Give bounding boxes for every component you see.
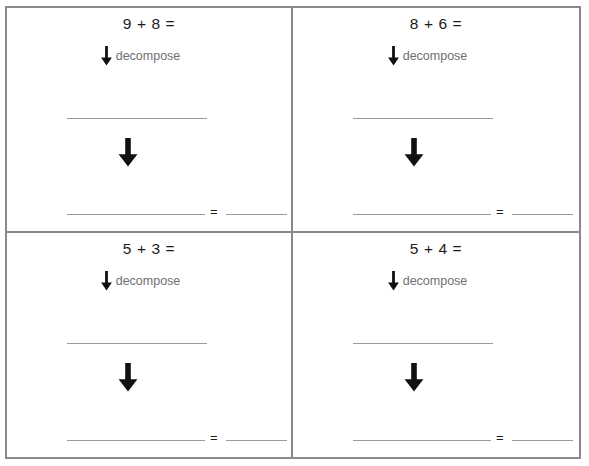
arrow-down-icon xyxy=(117,363,139,392)
worksheet-grid: 9 + 8 = decompose = 8 + 6 = xyxy=(5,6,581,459)
answer-blank-line-result[interactable] xyxy=(226,440,287,441)
decompose-step: decompose xyxy=(7,271,291,291)
decompose-label: decompose xyxy=(403,272,468,290)
arrow-down-large xyxy=(403,363,427,393)
worksheet-cell: 9 + 8 = decompose = xyxy=(7,8,293,233)
arrow-down-icon xyxy=(100,271,113,291)
decompose-label: decompose xyxy=(403,47,468,65)
arrow-down-icon xyxy=(403,138,425,167)
decompose-label: decompose xyxy=(116,272,181,290)
answer-blank-line-second[interactable] xyxy=(67,440,205,441)
answer-blank-line-result[interactable] xyxy=(226,214,287,215)
final-answer-row: = xyxy=(67,199,281,215)
arrow-down-icon xyxy=(403,363,425,392)
worksheet-cell: 5 + 4 = decompose = xyxy=(293,233,579,458)
worksheet-cell: 5 + 3 = decompose = xyxy=(7,233,293,458)
problem-expression: 9 + 8 = xyxy=(7,14,291,34)
answer-blank-line-second[interactable] xyxy=(353,440,491,441)
arrow-down-icon xyxy=(387,271,400,291)
decompose-step: decompose xyxy=(293,271,579,291)
answer-blank-line-first[interactable] xyxy=(353,118,493,119)
problem-expression: 5 + 3 = xyxy=(7,239,291,259)
answer-blank-line-result[interactable] xyxy=(512,214,573,215)
problem-expression: 8 + 6 = xyxy=(293,14,579,34)
final-answer-row: = xyxy=(353,199,569,215)
arrow-down-icon xyxy=(100,46,113,66)
answer-blank-line-second[interactable] xyxy=(353,214,491,215)
equals-sign: = xyxy=(210,205,218,219)
arrow-down-large xyxy=(117,363,141,393)
answer-blank-line-first[interactable] xyxy=(67,343,207,344)
arrow-down-icon xyxy=(117,138,139,167)
arrow-down-icon xyxy=(387,46,400,66)
final-answer-row: = xyxy=(67,425,281,441)
equals-sign: = xyxy=(210,431,218,445)
decompose-label: decompose xyxy=(116,47,181,65)
arrow-down-large xyxy=(117,138,141,168)
answer-blank-line-first[interactable] xyxy=(67,118,207,119)
decompose-step: decompose xyxy=(293,46,579,66)
worksheet-cell: 8 + 6 = decompose = xyxy=(293,8,579,233)
decompose-step: decompose xyxy=(7,46,291,66)
problem-expression: 5 + 4 = xyxy=(293,239,579,259)
answer-blank-line-result[interactable] xyxy=(512,440,573,441)
equals-sign: = xyxy=(496,431,504,445)
equals-sign: = xyxy=(496,205,504,219)
answer-blank-line-first[interactable] xyxy=(353,343,493,344)
final-answer-row: = xyxy=(353,425,569,441)
answer-blank-line-second[interactable] xyxy=(67,214,205,215)
arrow-down-large xyxy=(403,138,427,168)
